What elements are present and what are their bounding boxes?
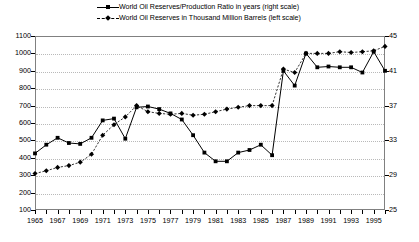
data-point-square-icon bbox=[123, 137, 127, 141]
data-point-square-icon bbox=[101, 119, 105, 123]
data-point-square-icon bbox=[146, 105, 150, 109]
data-point-diamond-icon bbox=[78, 160, 83, 165]
data-point-square-icon bbox=[112, 117, 116, 121]
data-point-diamond-icon bbox=[66, 163, 71, 168]
series-line bbox=[35, 52, 385, 162]
data-point-square-icon bbox=[338, 65, 342, 69]
series-line bbox=[35, 46, 385, 173]
data-point-square-icon bbox=[236, 151, 240, 155]
data-point-diamond-icon bbox=[382, 44, 387, 49]
data-point-diamond-icon bbox=[32, 171, 37, 176]
data-point-square-icon bbox=[203, 151, 207, 155]
data-point-square-icon bbox=[214, 159, 218, 163]
data-point-square-icon bbox=[327, 65, 331, 69]
data-point-square-icon bbox=[361, 71, 365, 75]
data-point-diamond-icon bbox=[157, 111, 162, 116]
data-point-square-icon bbox=[383, 69, 387, 73]
data-point-diamond-icon bbox=[270, 103, 275, 108]
data-point-diamond-icon bbox=[337, 49, 342, 54]
data-point-diamond-icon bbox=[258, 103, 263, 108]
data-point-square-icon bbox=[157, 107, 161, 111]
data-point-square-icon bbox=[56, 136, 60, 140]
data-point-diamond-icon bbox=[191, 113, 196, 118]
data-point-diamond-icon bbox=[55, 165, 60, 170]
data-point-square-icon bbox=[225, 159, 229, 163]
chart-root: World Oil Reserves/Production Ratio in y… bbox=[0, 0, 419, 242]
data-point-square-icon bbox=[248, 148, 252, 152]
data-point-square-icon bbox=[180, 118, 184, 122]
data-point-square-icon bbox=[293, 84, 297, 88]
data-point-square-icon bbox=[270, 153, 274, 157]
data-point-square-icon bbox=[90, 136, 94, 140]
data-point-square-icon bbox=[78, 142, 82, 146]
data-point-diamond-icon bbox=[247, 103, 252, 108]
data-point-diamond-icon bbox=[326, 51, 331, 56]
data-point-square-icon bbox=[191, 133, 195, 137]
data-point-diamond-icon bbox=[202, 112, 207, 117]
data-point-diamond-icon bbox=[44, 168, 49, 173]
data-point-diamond-icon bbox=[315, 51, 320, 56]
data-series-layer bbox=[0, 0, 419, 242]
data-point-diamond-icon bbox=[292, 70, 297, 75]
data-point-square-icon bbox=[315, 65, 319, 69]
data-point-diamond-icon bbox=[224, 107, 229, 112]
data-point-diamond-icon bbox=[89, 152, 94, 157]
data-point-diamond-icon bbox=[360, 49, 365, 54]
data-point-diamond-icon bbox=[349, 50, 354, 55]
data-point-diamond-icon bbox=[213, 109, 218, 114]
data-point-square-icon bbox=[259, 143, 263, 147]
data-point-square-icon bbox=[349, 65, 353, 69]
data-point-square-icon bbox=[67, 141, 71, 145]
data-point-diamond-icon bbox=[236, 105, 241, 110]
series-reserves bbox=[32, 44, 387, 176]
data-point-square-icon bbox=[33, 152, 37, 156]
data-point-square-icon bbox=[44, 143, 48, 147]
data-point-diamond-icon bbox=[145, 109, 150, 114]
data-point-diamond-icon bbox=[179, 111, 184, 116]
series-rp-ratio bbox=[33, 50, 387, 163]
